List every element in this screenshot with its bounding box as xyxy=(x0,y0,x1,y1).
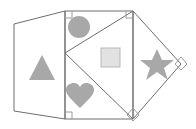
circle-glyph xyxy=(68,16,90,38)
geometric-figure-canvas xyxy=(0,0,196,129)
square-glyph xyxy=(101,48,120,67)
